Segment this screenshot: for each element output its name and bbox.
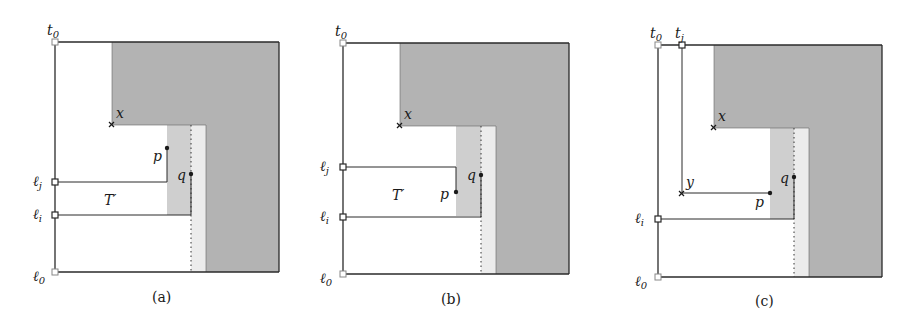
label-li: ℓi <box>635 210 644 228</box>
label-p: p <box>153 148 162 164</box>
light-gray-strip <box>794 128 809 277</box>
light-gray-strip <box>481 126 496 274</box>
q-point <box>189 172 193 176</box>
panel-a: t0 ℓj ℓi ℓ0 x p q T′ (a) <box>33 22 279 305</box>
li-terminal <box>340 214 346 220</box>
path-lj-p <box>55 148 167 182</box>
label-t0: t0 <box>47 22 60 40</box>
l0-terminal <box>655 274 661 280</box>
label-t0: t0 <box>335 23 348 41</box>
label-x: x <box>718 108 726 124</box>
label-lj: ℓj <box>320 158 329 176</box>
label-lj: ℓj <box>33 173 42 191</box>
label-T-prime: T′ <box>104 192 117 208</box>
caption-b: (b) <box>441 291 461 307</box>
label-tj: tj <box>675 25 684 43</box>
q-point <box>479 173 483 177</box>
label-x: x <box>404 106 412 122</box>
label-q: q <box>467 167 476 183</box>
figure-canvas: t0 ℓj ℓi ℓ0 x p q T′ (a) t0 ℓj ℓi ℓ0 <box>0 0 921 334</box>
label-t0: t0 <box>650 25 663 43</box>
label-x: x <box>116 105 124 121</box>
label-q: q <box>780 170 789 186</box>
light-gray-strip <box>191 125 206 272</box>
p-point <box>768 191 772 195</box>
panel-c: t0 tj ℓi ℓ0 x y p q (c) <box>635 25 882 309</box>
panel-b: t0 ℓj ℓi ℓ0 x p q T′ (b) <box>320 23 569 307</box>
p-point <box>454 190 458 194</box>
label-li: ℓi <box>320 208 329 226</box>
label-T-prime: T′ <box>392 187 405 203</box>
label-l0: ℓ0 <box>320 270 333 288</box>
label-p: p <box>440 186 449 202</box>
lj-terminal <box>340 164 346 170</box>
li-terminal <box>52 212 58 218</box>
li-terminal <box>655 216 661 222</box>
caption-c: (c) <box>755 293 774 309</box>
q-point <box>792 175 796 179</box>
l0-terminal <box>340 271 346 277</box>
label-l0: ℓ0 <box>33 268 46 286</box>
p-point <box>165 146 169 150</box>
l0-terminal <box>52 269 58 275</box>
label-p: p <box>755 194 764 210</box>
label-li: ℓi <box>33 206 42 224</box>
label-y: y <box>685 174 695 190</box>
caption-a: (a) <box>152 289 171 305</box>
label-q: q <box>177 167 186 183</box>
label-l0: ℓ0 <box>635 273 648 291</box>
lj-terminal <box>52 179 58 185</box>
